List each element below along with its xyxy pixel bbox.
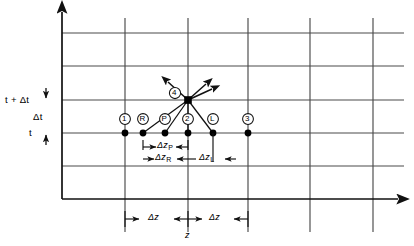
axis-label-t-plus-delta-t: t + Δt [5,95,29,105]
node-label-4: 4 [172,89,177,97]
node-label-2: 2 [185,115,190,123]
node-label-R: R [140,115,146,123]
axis-label-delta-t: Δt [33,112,43,122]
node-dot-1 [122,130,129,137]
measurement-base-delta-z-r: Δz [155,152,166,162]
node-dot-P [162,130,169,137]
measurement-base-delta-z-l: Δz [199,152,210,162]
diagram-canvas [0,0,414,246]
node-label-1: 1 [122,115,127,123]
finite-difference-grid-figure: t + Δt t Δt z 1 R P 2 L 3 4 ΔzP ΔzR ΔzL … [0,0,414,246]
node-label-L: L [210,115,215,123]
axis-label-t: t [29,128,32,138]
measurement-label-delta-z-l: ΔzL [199,153,214,163]
node-label-P: P [162,115,168,123]
measurement-label-delta-z-left: Δz [148,213,159,222]
node-dot-R [140,130,147,137]
measurement-base-delta-z-left: Δz [148,212,159,222]
measurement-label-delta-z-r: ΔzR [155,153,172,163]
measurement-sub-delta-z-l: L [210,156,214,163]
node-dot-4 [184,96,192,104]
measurement-label-delta-z-p: ΔzP [157,141,173,151]
measurement-label-delta-z-right: Δz [209,213,220,222]
axis-label-z: z [185,231,190,240]
node-label-3: 3 [245,115,250,123]
measurement-sub-delta-z-p: P [168,144,173,151]
measurement-base-delta-z-right: Δz [209,212,220,222]
node-dot-2 [185,130,192,137]
measurement-sub-delta-z-r: R [166,156,171,163]
grid-lines [62,18,404,232]
measurement-base-delta-z-p: Δz [157,140,168,150]
characteristic-lines [143,100,213,133]
axes [62,12,398,199]
measurement-bars [125,133,248,227]
node-dot-3 [245,130,252,137]
